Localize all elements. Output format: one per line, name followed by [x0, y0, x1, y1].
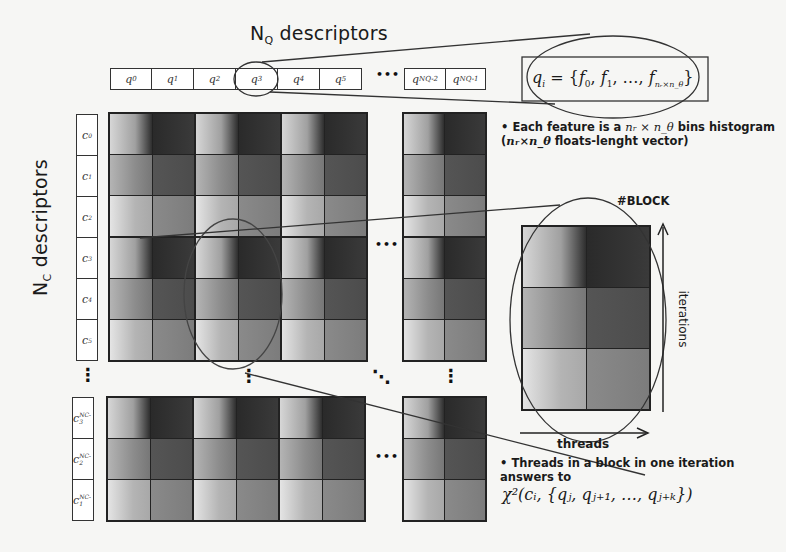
connector-line-bottom	[270, 92, 555, 104]
formula-text: qi = {f0, f1, …, fnᵣ×n_θ}	[532, 68, 693, 89]
iterations-label: iterations	[676, 279, 690, 359]
block-label: #BLOCK	[617, 194, 669, 208]
zoomed-ellipse	[510, 198, 666, 442]
threads-note: • Threads in a block in one iteration an…	[500, 456, 786, 484]
chi-square-formula: χ²(cᵢ, {qⱼ, qⱼ₊₁, …, qⱼ₊ₖ})	[502, 485, 692, 504]
threads-label: threads	[557, 437, 609, 451]
highlight-ellipse-block	[184, 219, 282, 369]
highlight-ellipse-q3	[234, 62, 278, 96]
connector-line-block-top	[140, 205, 560, 238]
feature-note: • Each feature is a nᵣ × n_θ bins histog…	[501, 120, 786, 148]
connector-line-top	[262, 34, 590, 62]
